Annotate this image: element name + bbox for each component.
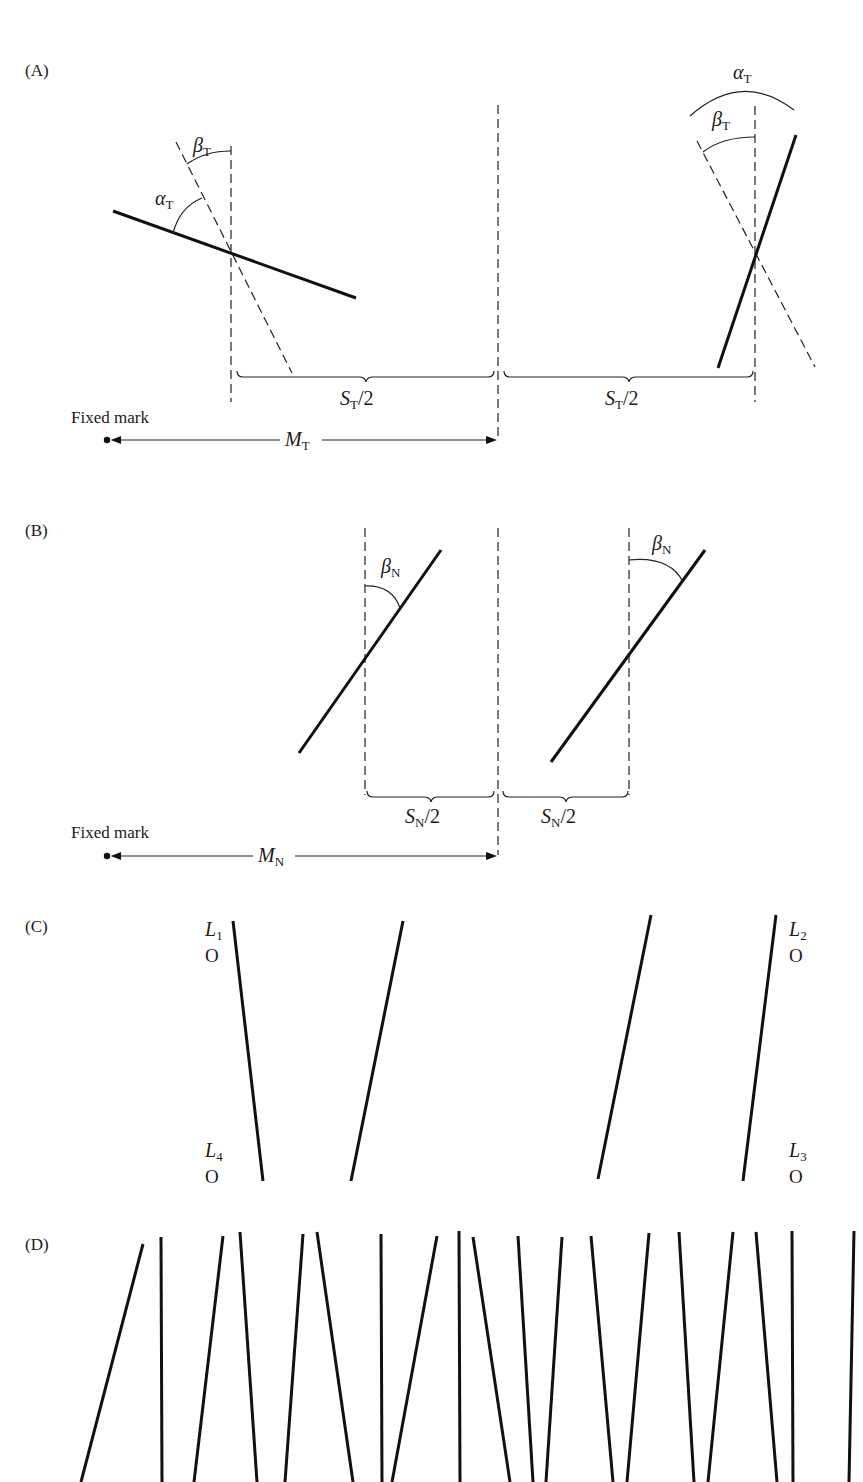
- panel-a: (A) βT αT αT βT ST/2 ST/2 Fixed mark MT: [25, 61, 815, 453]
- right-body-line: [718, 135, 796, 368]
- right-body-line-b: [551, 550, 705, 762]
- distance-label-a: MT: [284, 428, 310, 453]
- school-line: [546, 1237, 562, 1482]
- school-line: [194, 1236, 223, 1482]
- light-l3-label: L3: [788, 1139, 807, 1164]
- arrowhead-left-b-icon: [111, 852, 121, 860]
- alpha-left-arc: [173, 198, 202, 233]
- school-line: [518, 1236, 533, 1482]
- distance-label-b: MN: [257, 844, 285, 869]
- brace-left: [237, 371, 494, 382]
- school-line: [81, 1244, 143, 1482]
- light-l1-label: L1: [204, 918, 223, 943]
- light-l2-label: L2: [788, 918, 807, 943]
- brace-left-label: ST/2: [340, 387, 374, 412]
- school-line: [392, 1236, 437, 1482]
- alpha-right-label: αT: [733, 61, 752, 86]
- school-line: [381, 1234, 382, 1482]
- beta-left-label: βT: [192, 134, 211, 159]
- school-line: [792, 1231, 793, 1482]
- panel-d-label: (D): [25, 1235, 49, 1254]
- brace-right: [504, 371, 753, 382]
- beta-left-arc-b: [365, 586, 400, 608]
- panel-b-label: (B): [25, 521, 48, 540]
- school-line: [240, 1232, 257, 1482]
- light-l3-marker-icon: O: [789, 1166, 803, 1187]
- beta-right-arc: [703, 137, 755, 152]
- panel-d: (D): [25, 1231, 854, 1482]
- alpha-left-label: αT: [155, 187, 174, 212]
- brace-right-label-b: SN/2: [541, 805, 576, 830]
- light-l2-marker-icon: O: [789, 945, 803, 966]
- tank-line-4: [743, 915, 776, 1181]
- light-l1-marker-icon: O: [205, 945, 219, 966]
- fixed-mark-label-b: Fixed mark: [71, 823, 149, 842]
- arrowhead-left-a-icon: [111, 436, 121, 444]
- fixed-mark-dot-a: [104, 437, 110, 443]
- school-line: [317, 1232, 353, 1482]
- left-body-line-b: [299, 550, 441, 753]
- school-line: [161, 1237, 162, 1482]
- fixed-mark-label-a: Fixed mark: [71, 408, 149, 427]
- school-line: [285, 1234, 303, 1482]
- left-tilted-reference-line: [176, 142, 292, 373]
- light-l4-marker-icon: O: [205, 1166, 219, 1187]
- school-line: [627, 1233, 649, 1482]
- school-line: [756, 1232, 777, 1482]
- school-line: [473, 1237, 510, 1482]
- brace-left-label-b: SN/2: [405, 805, 440, 830]
- brace-left-b: [367, 791, 494, 802]
- school-line: [708, 1232, 733, 1482]
- tank-line-2: [351, 921, 403, 1181]
- panel-c: (C) L1 O L2 O L3 O L4 O: [25, 915, 807, 1187]
- beta-left-label-b: βN: [380, 555, 401, 580]
- beta-right-label-b: βN: [651, 532, 672, 557]
- left-body-line: [113, 211, 356, 298]
- school-line: [679, 1232, 694, 1482]
- panel-c-label: (C): [25, 917, 48, 936]
- figure-canvas: (A) βT αT αT βT ST/2 ST/2 Fixed mark MT: [0, 0, 863, 1482]
- panel-b: (B) βN βN SN/2 SN/2 Fixed mark MN: [25, 521, 705, 869]
- beta-right-arc-b: [629, 559, 683, 582]
- panel-a-label: (A): [25, 61, 49, 80]
- tank-line-1: [233, 921, 263, 1181]
- arrowhead-right-b-icon: [486, 852, 497, 860]
- fixed-mark-dot-b: [104, 853, 110, 859]
- brace-right-b: [503, 791, 628, 802]
- tank-line-3: [598, 915, 651, 1179]
- beta-right-label: βT: [711, 108, 730, 133]
- light-l4-label: L4: [204, 1139, 223, 1164]
- school-line: [591, 1236, 613, 1482]
- school-line: [849, 1231, 854, 1482]
- arrowhead-right-a-icon: [486, 436, 497, 444]
- school-line: [459, 1231, 460, 1482]
- alpha-right-arc: [690, 91, 794, 116]
- brace-right-label: ST/2: [605, 387, 639, 412]
